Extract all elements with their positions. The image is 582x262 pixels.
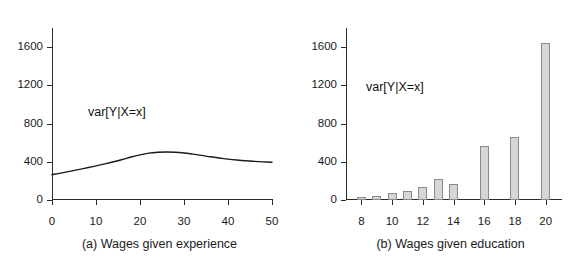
bar-education-20 xyxy=(541,43,550,200)
x-tick-label: 10 xyxy=(90,214,103,228)
x-tick-mark: 12 xyxy=(423,200,424,205)
y-tick-label: 0 xyxy=(37,192,43,207)
panel-a-plot-area: 040080012001600 01020304050 xyxy=(52,28,272,200)
x-tick-label: 14 xyxy=(447,214,460,228)
panel-b-caption: (b) Wages given education xyxy=(291,236,582,252)
bar-education-18 xyxy=(510,137,519,200)
panel-a-annotation-label: var[Y|X=x] xyxy=(88,105,146,120)
y-tick-label: 0 xyxy=(331,192,337,207)
y-tick-mark: 0 xyxy=(341,200,346,201)
bar-education-10 xyxy=(388,193,397,200)
bar-education-8 xyxy=(357,197,366,200)
panel-b-y-axis xyxy=(346,28,347,200)
x-tick-mark: 16 xyxy=(484,200,485,205)
y-tick-mark: 1200 xyxy=(341,85,346,86)
x-tick-mark: 10 xyxy=(96,200,97,205)
x-tick-label: 30 xyxy=(178,214,191,228)
x-tick-label: 16 xyxy=(478,214,491,228)
x-tick-mark: 18 xyxy=(515,200,516,205)
panel-a-caption: (a) Wages given experience xyxy=(0,236,291,252)
x-tick-label: 0 xyxy=(49,214,55,228)
x-tick-label: 20 xyxy=(539,214,552,228)
y-tick-label: 800 xyxy=(318,116,337,131)
x-tick-label: 50 xyxy=(266,214,279,228)
bar-education-9 xyxy=(372,196,381,200)
x-tick-mark: 20 xyxy=(546,200,547,205)
x-tick-mark: 0 xyxy=(52,200,53,205)
y-tick-label: 400 xyxy=(318,154,337,169)
y-tick-label: 400 xyxy=(24,154,43,169)
bar-education-13 xyxy=(434,179,443,200)
panel-a-wages-given-experience: 040080012001600 01020304050 var[Y|X=x] (… xyxy=(0,0,291,262)
y-tick-label: 800 xyxy=(24,116,43,131)
x-tick-mark: 40 xyxy=(228,200,229,205)
y-tick-label: 1600 xyxy=(311,39,337,54)
x-tick-mark: 50 xyxy=(272,200,273,205)
y-tick-mark: 800 xyxy=(341,124,346,125)
x-tick-mark: 30 xyxy=(184,200,185,205)
figure-two-panel-variance-plots: 040080012001600 01020304050 var[Y|X=x] (… xyxy=(0,0,582,262)
bar-education-12 xyxy=(418,187,427,200)
y-tick-label: 1200 xyxy=(17,77,43,92)
x-tick-label: 12 xyxy=(416,214,429,228)
x-tick-label: 18 xyxy=(509,214,522,228)
x-tick-label: 40 xyxy=(222,214,235,228)
x-tick-label: 8 xyxy=(358,214,364,228)
x-tick-mark: 14 xyxy=(454,200,455,205)
panel-b-plot-area: 040080012001600 8101214161820 xyxy=(346,28,561,200)
panel-b-annotation-label: var[Y|X=x] xyxy=(366,80,424,95)
y-tick-label: 1200 xyxy=(311,77,337,92)
x-tick-mark: 20 xyxy=(140,200,141,205)
y-tick-mark: 400 xyxy=(341,162,346,163)
panel-b-wages-given-education: 040080012001600 8101214161820 var[Y|X=x]… xyxy=(291,0,582,262)
bar-education-11 xyxy=(403,191,412,200)
x-tick-label: 10 xyxy=(386,214,399,228)
y-tick-mark: 1600 xyxy=(341,47,346,48)
x-tick-mark: 8 xyxy=(361,200,362,205)
bar-education-14 xyxy=(449,184,458,200)
x-tick-mark: 10 xyxy=(392,200,393,205)
bar-education-16 xyxy=(480,146,489,200)
panel-a-variance-curve xyxy=(52,28,272,200)
y-tick-label: 1600 xyxy=(17,39,43,54)
x-tick-label: 20 xyxy=(134,214,147,228)
